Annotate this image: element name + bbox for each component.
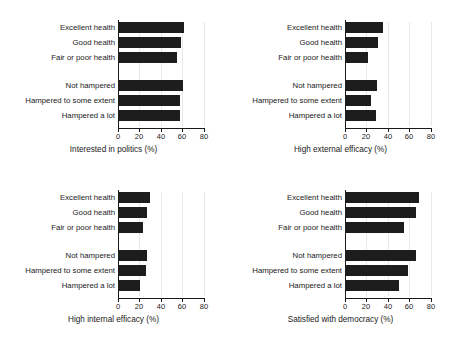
x-tick-label-80: 80	[421, 302, 441, 311]
category-label-hampered-some-extent: Hampered to some extent	[0, 95, 115, 106]
gridline-40	[388, 22, 389, 126]
x-tick-label-60: 60	[399, 302, 419, 311]
x-tick-label-20: 20	[356, 302, 376, 311]
gridline-60	[182, 192, 183, 296]
category-label-not-hampered: Not hampered	[227, 250, 342, 261]
category-label-not-hampered: Not hampered	[0, 250, 115, 261]
category-label-hampered-a-lot: Hampered a lot	[0, 110, 115, 121]
category-label-fair-or-poor-health: Fair or poor health	[227, 222, 342, 233]
x-axis-title: Satisfied with democracy (%)	[227, 315, 454, 324]
bar-hampered-a-lot	[118, 110, 180, 121]
bar-good-health	[118, 207, 147, 218]
x-tick-label-40: 40	[151, 302, 171, 311]
gridline-80	[431, 192, 432, 296]
bar-not-hampered	[118, 250, 147, 261]
category-label-fair-or-poor-health: Fair or poor health	[0, 222, 115, 233]
x-tick-label-0: 0	[108, 302, 128, 311]
x-tick-label-80: 80	[194, 132, 214, 141]
bar-excellent-health	[345, 22, 383, 33]
bar-hampered-some-extent	[118, 95, 180, 106]
category-label-hampered-some-extent: Hampered to some extent	[0, 265, 115, 276]
bar-fair-or-poor-health	[118, 222, 143, 233]
bar-hampered-some-extent	[345, 265, 408, 276]
x-tick-label-40: 40	[151, 132, 171, 141]
bar-hampered-a-lot	[345, 110, 376, 121]
x-axis-title: High internal efficacy (%)	[0, 315, 227, 324]
bar-good-health	[345, 37, 378, 48]
category-label-fair-or-poor-health: Fair or poor health	[227, 52, 342, 63]
x-tick-label-0: 0	[335, 302, 355, 311]
gridline-80	[204, 192, 205, 296]
panel-satisfied-with-democracy: 0 20 40 60 80 Excellent health Good heal…	[227, 170, 454, 341]
category-label-excellent-health: Excellent health	[227, 22, 342, 33]
gridline-60	[409, 22, 410, 126]
bar-hampered-a-lot	[118, 280, 140, 291]
gridline-40	[161, 192, 162, 296]
bar-excellent-health	[118, 192, 150, 203]
bar-excellent-health	[345, 192, 419, 203]
category-label-not-hampered: Not hampered	[0, 80, 115, 91]
category-label-hampered-a-lot: Hampered a lot	[0, 280, 115, 291]
x-tick-label-60: 60	[172, 302, 192, 311]
category-label-excellent-health: Excellent health	[0, 22, 115, 33]
gridline-60	[182, 22, 183, 126]
panel-interested-in-politics: 0 20 40 60 80 Excellent health Good heal…	[0, 0, 227, 170]
bar-hampered-some-extent	[345, 95, 371, 106]
category-label-hampered-a-lot: Hampered a lot	[227, 280, 342, 291]
category-label-not-hampered: Not hampered	[227, 80, 342, 91]
x-tick-label-0: 0	[108, 132, 128, 141]
bar-good-health	[345, 207, 416, 218]
category-label-fair-or-poor-health: Fair or poor health	[0, 52, 115, 63]
gridline-80	[204, 22, 205, 126]
category-label-excellent-health: Excellent health	[0, 192, 115, 203]
category-label-good-health: Good health	[227, 207, 342, 218]
bar-hampered-a-lot	[345, 280, 399, 291]
category-label-good-health: Good health	[0, 37, 115, 48]
bar-fair-or-poor-health	[345, 52, 368, 63]
bar-hampered-some-extent	[118, 265, 146, 276]
x-tick-label-60: 60	[172, 132, 192, 141]
category-label-excellent-health: Excellent health	[227, 192, 342, 203]
x-axis-title: High external efficacy (%)	[227, 145, 454, 154]
x-tick-label-20: 20	[356, 132, 376, 141]
x-tick-label-80: 80	[421, 132, 441, 141]
x-tick-label-20: 20	[129, 132, 149, 141]
multi-panel-bar-chart-figure: 0 20 40 60 80 Excellent health Good heal…	[0, 0, 454, 341]
category-label-hampered-some-extent: Hampered to some extent	[227, 95, 342, 106]
x-tick-label-40: 40	[378, 302, 398, 311]
panel-high-internal-efficacy: 0 20 40 60 80 Excellent health Good heal…	[0, 170, 227, 341]
category-label-good-health: Good health	[0, 207, 115, 218]
x-tick-label-20: 20	[129, 302, 149, 311]
bar-fair-or-poor-health	[118, 52, 177, 63]
x-tick-label-60: 60	[399, 132, 419, 141]
x-tick-label-0: 0	[335, 132, 355, 141]
bar-not-hampered	[118, 80, 183, 91]
x-tick-label-40: 40	[378, 132, 398, 141]
bar-fair-or-poor-health	[345, 222, 404, 233]
category-label-hampered-a-lot: Hampered a lot	[227, 110, 342, 121]
x-axis-title: Interested in politics (%)	[0, 145, 227, 154]
bar-not-hampered	[345, 80, 377, 91]
panel-high-external-efficacy: 0 20 40 60 80 Excellent health Good heal…	[227, 0, 454, 170]
bar-not-hampered	[345, 250, 416, 261]
category-label-hampered-some-extent: Hampered to some extent	[227, 265, 342, 276]
x-tick-label-80: 80	[194, 302, 214, 311]
bar-good-health	[118, 37, 181, 48]
gridline-80	[431, 22, 432, 126]
category-label-good-health: Good health	[227, 37, 342, 48]
bar-excellent-health	[118, 22, 184, 33]
